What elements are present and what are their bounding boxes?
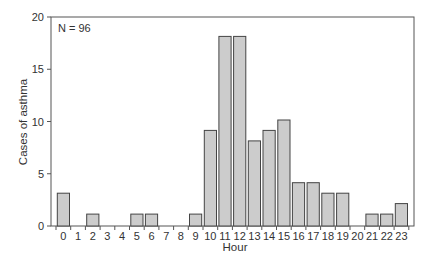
x-tick-label: 3: [104, 230, 110, 242]
bar-hour-17: [307, 183, 319, 226]
y-tick-label: 10: [32, 116, 44, 128]
bar-hour-6: [145, 214, 157, 226]
x-tick-label: 20: [351, 230, 363, 242]
x-tick-label: 22: [381, 230, 393, 242]
x-tick-label: 6: [148, 230, 154, 242]
plot-border: [51, 17, 414, 226]
bar-hour-23: [395, 204, 407, 226]
x-axis: 01234567891011121314151617181920212223: [56, 226, 409, 242]
y-tick-label: 15: [32, 63, 44, 75]
y-tick-label: 0: [38, 220, 44, 232]
x-tick-label: 15: [278, 230, 290, 242]
y-tick-label: 5: [38, 168, 44, 180]
x-tick-label: 4: [119, 230, 125, 242]
x-tick-label: 19: [337, 230, 349, 242]
bar-hour-15: [278, 120, 290, 226]
bar-hour-9: [190, 214, 202, 226]
bar-chart: 01234567891011121314151617181920212223 0…: [0, 0, 436, 266]
bar-hour-19: [337, 193, 349, 226]
x-tick-label: 13: [248, 230, 260, 242]
x-tick-label: 14: [263, 230, 275, 242]
x-tick-label: 9: [193, 230, 199, 242]
bar-hour-2: [87, 214, 99, 226]
y-tick-label: 20: [32, 11, 44, 23]
bar-hour-22: [381, 214, 393, 226]
x-tick-label: 10: [204, 230, 216, 242]
x-tick-label: 0: [60, 230, 66, 242]
x-tick-label: 18: [322, 230, 334, 242]
x-tick-label: 17: [307, 230, 319, 242]
bar-hour-14: [263, 130, 275, 226]
bar-hour-13: [248, 141, 260, 226]
x-tick-label: 7: [163, 230, 169, 242]
bar-hour-11: [219, 36, 231, 226]
x-tick-label: 1: [75, 230, 81, 242]
x-axis-title: Hour: [223, 241, 248, 253]
bar-hour-5: [131, 214, 143, 226]
x-tick-label: 21: [366, 230, 378, 242]
sample-size-annotation: N = 96: [58, 22, 91, 34]
bar-hour-18: [322, 193, 334, 226]
y-axis-title: Cases of asthma: [17, 78, 29, 165]
x-tick-label: 23: [395, 230, 407, 242]
y-axis: 05101520: [32, 11, 51, 232]
bar-hour-21: [366, 214, 378, 226]
x-tick-label: 2: [90, 230, 96, 242]
plot-frame: [51, 17, 414, 226]
bar-hour-10: [204, 130, 216, 226]
bar-hour-0: [57, 193, 69, 226]
x-tick-label: 16: [292, 230, 304, 242]
bar-hour-12: [234, 36, 246, 226]
bar-hour-16: [292, 183, 304, 226]
x-tick-label: 8: [178, 230, 184, 242]
bars: [57, 36, 407, 226]
x-tick-label: 5: [134, 230, 140, 242]
